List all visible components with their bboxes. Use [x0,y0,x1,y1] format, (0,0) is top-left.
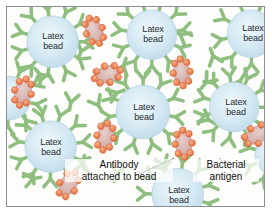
latex-bead-label-line2: bead [134,112,154,122]
antigen-epitope-dot [187,149,194,156]
latex-bead-label: Latexbead [223,23,265,43]
latex-bead-label: Latexbead [114,102,174,122]
antigen-epitope-dot [186,130,193,137]
antigen-epitope-dot [179,127,186,134]
latex-bead-label: Latexbead [149,185,209,205]
antigen-epitope-dot [189,140,196,147]
antigen-epitope-dot [181,154,188,161]
antigen-epitope-dot [187,68,194,75]
latex-bead-label: Latexbead [206,97,265,117]
antibody-callout-line2: attached to bead [82,171,157,182]
diagram-frame: LatexbeadLatexbeadLatexbeadLatexbeadLate… [6,6,265,207]
antigen-epitope-dot [177,55,184,62]
latex-bead-label-line1: Latex [40,137,62,147]
antigen-epitope-dot [173,79,180,86]
latex-bead-label-line1: Latex [133,102,155,112]
antigen-epitope-dot [173,131,180,138]
latex-bead-label-line1: Latex [242,23,264,33]
latex-bead-label-line1: Latex [142,24,164,34]
antigen-epitope-dot [171,60,178,67]
latex-bead-label-line2: bead [243,33,263,43]
latex-agglutination-figure: LatexbeadLatexbeadLatexbeadLatexbeadLate… [0,0,272,214]
latex-bead-label-line1: Latex [168,185,190,195]
antigen-epitope-dot [179,82,186,89]
antibody-callout-line1: Antibody [100,159,139,170]
antigen-callout-line1: Bacterial [207,159,246,170]
antigen-epitope-dot [185,78,192,85]
antigen-callout: Bacterial antigen [193,159,259,182]
antigen-callout-line2: antigen [210,171,243,182]
antigen-epitope-dot [183,59,190,66]
antigen-epitope-dot [172,141,179,148]
latex-bead-label-line1: Latex [225,97,247,107]
latex-bead-label: Latexbead [21,137,81,157]
latex-bead-label-line2: bead [226,107,246,117]
latex-bead-label-line2: bead [41,147,61,157]
latex-bead-label-line2: bead [143,34,163,44]
latex-bead-label: Latexbead [23,31,83,51]
latex-bead-label-line2: bead [169,195,189,205]
latex-bead-label-line1: Latex [42,31,64,41]
antibody-callout: Antibody attached to bead [65,159,173,182]
latex-bead-label-line2: bead [43,41,63,51]
latex-bead-label: Latexbead [123,24,183,44]
antigen-epitope-dot [175,150,182,157]
antigen-epitope-dot [170,70,177,77]
